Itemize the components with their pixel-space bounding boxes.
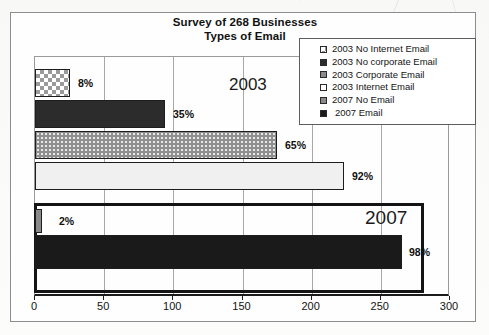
chart-title: Survey of 268 Businesses: [11, 15, 475, 29]
bar-2003-corporate-email[interactable]: [35, 131, 277, 159]
legend-label-2003-no-internet-email: 2003 No Internet Email: [332, 43, 429, 56]
x-tick-label-0: 0: [31, 300, 37, 312]
legend-item-2003-no-internet-email[interactable]: 2003 No Internet Email: [304, 43, 469, 56]
bar-row-2003-corporate-email: 65%: [35, 131, 448, 159]
bar-label-2003-corporate-email: 65%: [285, 139, 306, 151]
bar-2007-no-email[interactable]: [35, 209, 42, 233]
x-axis: 0 50 100 150 200 250 300: [34, 300, 449, 318]
legend-item-2003-no-corporate-email[interactable]: 2003 No corporate Email: [304, 56, 469, 69]
group-annotation-2003: 2003: [229, 75, 267, 95]
legend-label-2003-internet-email: 2003 Internet Email: [332, 81, 414, 94]
legend-item-2007-email[interactable]: 2007 Email: [304, 107, 469, 120]
legend-swatch-black-solid-icon: [320, 110, 327, 117]
legend-label-2007-no-email: 2007 No Email: [332, 94, 394, 107]
legend-swatch-gray-solid-icon: [320, 71, 327, 78]
legend-item-2007-no-email[interactable]: 2007 No Email: [304, 94, 469, 107]
x-tick-label-50: 50: [97, 300, 109, 312]
bar-2003-no-corporate-email[interactable]: [35, 100, 165, 128]
bar-label-2003-no-internet-email: 8%: [78, 77, 93, 89]
x-tick-label-300: 300: [440, 300, 458, 312]
x-tick-label-150: 150: [232, 300, 250, 312]
bar-label-2007-no-email: 2%: [59, 215, 74, 227]
legend-label-2003-no-corporate-email: 2003 No corporate Email: [332, 56, 437, 69]
x-tick-label-100: 100: [163, 300, 181, 312]
bar-2007-email[interactable]: [35, 235, 402, 269]
legend-swatch-gray-solid-2-icon: [320, 97, 327, 104]
chart-frame: Survey of 268 Businesses Types of Email …: [10, 12, 476, 322]
legend-swatch-dark-solid-icon: [320, 59, 327, 66]
group-annotation-2007: 2007: [365, 207, 407, 229]
bar-label-2007-email: 98%: [409, 246, 430, 258]
legend-label-2003-corporate-email: 2003 Corporate Email: [332, 69, 424, 82]
bar-row-2003-internet-email: 92%: [35, 162, 448, 190]
x-tick-label-200: 200: [301, 300, 319, 312]
x-tick-label-250: 250: [371, 300, 389, 312]
bar-row-2007-email: 98%: [35, 235, 448, 269]
legend-swatch-white-icon: [320, 84, 327, 91]
legend-swatch-checkerboard-icon: [320, 46, 327, 53]
bar-label-2003-no-corporate-email: 35%: [173, 108, 194, 120]
legend-item-2003-internet-email[interactable]: 2003 Internet Email: [304, 81, 469, 94]
legend-label-2007-email: 2007 Email: [332, 107, 383, 120]
bar-2003-no-internet-email[interactable]: [35, 69, 70, 97]
legend-item-2003-corporate-email[interactable]: 2003 Corporate Email: [304, 69, 469, 82]
bar-label-2003-internet-email: 92%: [352, 170, 373, 182]
chart-legend[interactable]: 2003 No Internet Email 2003 No corporate…: [299, 38, 476, 125]
bar-2003-internet-email[interactable]: [35, 162, 344, 190]
